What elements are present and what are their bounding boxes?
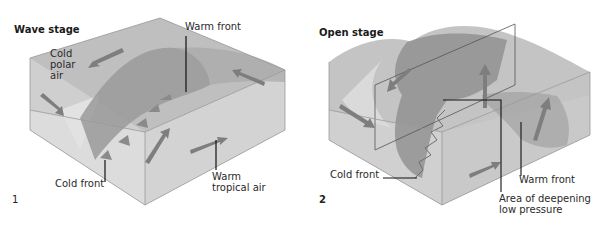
panel-title: Wave stage — [14, 25, 80, 35]
panel-open-stage: Open stage Cold front Warm front Area of… — [297, 0, 593, 226]
label-cold-polar-air: Cold polar air — [50, 48, 75, 81]
label-warm-front: Warm front — [519, 175, 575, 185]
panel-number: 1 — [12, 195, 18, 205]
label-warm-front: Warm front — [185, 22, 241, 32]
label-cold-front: Cold front — [55, 179, 104, 189]
panel-wave-stage: Wave stage Cold polar air Warm front Col… — [0, 0, 296, 226]
panel-title: Open stage — [319, 28, 383, 38]
label-cold-front: Cold front — [330, 170, 379, 180]
label-deepening-low-pressure: Area of deepening low pressure — [499, 193, 591, 215]
panel-number: 2 — [319, 195, 326, 205]
label-warm-tropical-air: Warm tropical air — [212, 171, 266, 193]
